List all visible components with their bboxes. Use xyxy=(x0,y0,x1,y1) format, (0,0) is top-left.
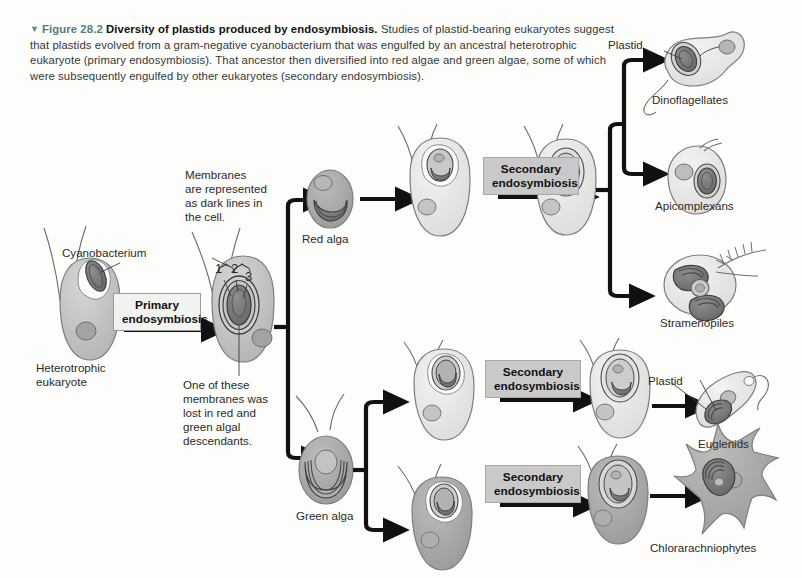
label-apicomplexans: Apicomplexans xyxy=(655,199,734,213)
process-box-secondary-endosymbiosis-red: Secondary endosymbiosis xyxy=(483,157,579,195)
label-membrane-number-1: 1 xyxy=(215,262,222,276)
cell-stramenopile xyxy=(664,242,766,323)
process-box-secondary-endosymbiosis-green-lower: Secondary endosymbiosis xyxy=(485,465,581,503)
secondary-green-lower-line1: Secondary xyxy=(494,470,572,484)
process-box-secondary-endosymbiosis-green-upper: Secondary endosymbiosis xyxy=(485,360,581,398)
label-red-alga: Red alga xyxy=(302,232,348,246)
primary-label-line1: Primary xyxy=(122,298,192,312)
label-membrane-number-3: 3 xyxy=(245,270,252,284)
label-plastid-dinoflagellate: Plastid xyxy=(608,38,643,52)
secondary-red-line1: Secondary xyxy=(492,162,570,176)
cell-primary-endosymbiont xyxy=(192,228,274,376)
label-membranes-note-line2: are represented xyxy=(185,182,267,196)
primary-label-line2: endosymbiosis xyxy=(122,312,192,326)
label-euglenids: Euglenids xyxy=(698,437,749,451)
label-membrane-number-2: 2 xyxy=(231,262,238,276)
label-heterotrophic-eukaryote-line2: eukaryote xyxy=(36,375,87,389)
diagram-vector-layer xyxy=(0,0,802,578)
label-lost-membrane-line4: green algal xyxy=(183,420,240,434)
cell-green-alga xyxy=(296,394,353,504)
secondary-green-upper-line2: endosymbiosis xyxy=(494,379,572,393)
secondary-red-line2: endosymbiosis xyxy=(492,176,570,190)
label-membranes-note-line1: Membranes xyxy=(185,168,246,182)
label-dinoflagellates: Dinoflagellates xyxy=(652,93,728,107)
cell-host-engulfing-red-alga xyxy=(398,124,470,236)
secondary-green-upper-line1: Secondary xyxy=(494,365,572,379)
cell-green-secondary-lower xyxy=(578,444,648,544)
label-lost-membrane-line5: descendants. xyxy=(183,434,252,448)
cell-red-alga xyxy=(307,170,353,228)
label-lost-membrane-line1: One of these xyxy=(183,378,249,392)
label-membranes-note-line3: as dark lines in xyxy=(185,196,262,210)
cell-euglenid xyxy=(696,372,768,427)
cell-host-engulfing-green-lower xyxy=(398,464,472,570)
cell-green-secondary-upper xyxy=(580,338,650,438)
figure-canvas: ▼Figure 28.2 Diversity of plastids produ… xyxy=(0,0,802,578)
label-cyanobacterium: Cyanobacterium xyxy=(62,246,146,260)
label-plastid-euglenid: Plastid xyxy=(648,374,683,388)
bracket-red-outcomes xyxy=(596,60,648,296)
label-green-alga: Green alga xyxy=(296,509,353,523)
label-stramenopiles: Stramenopiles xyxy=(660,316,734,330)
cell-host-engulfing-green-upper xyxy=(404,340,474,440)
label-heterotrophic-eukaryote-line1: Heterotrophic xyxy=(36,361,106,375)
label-lost-membrane-line2: membranes was xyxy=(183,392,268,406)
label-chlorarachniophytes: Chlorarachniophytes xyxy=(650,541,756,555)
label-lost-membrane-line3: lost in red and xyxy=(183,406,256,420)
process-box-primary-endosymbiosis: Primary endosymbiosis xyxy=(113,293,201,331)
secondary-green-lower-line2: endosymbiosis xyxy=(494,484,572,498)
bracket-green-split xyxy=(353,402,388,530)
label-membranes-note-line4: the cell. xyxy=(185,210,225,224)
